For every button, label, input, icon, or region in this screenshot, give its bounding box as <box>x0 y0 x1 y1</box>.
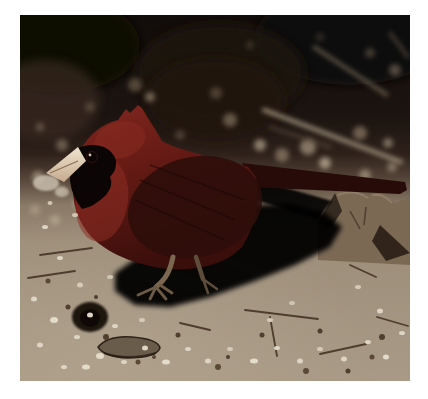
pebble <box>94 295 98 299</box>
seed <box>205 359 211 364</box>
pebble <box>136 360 141 365</box>
seed <box>77 283 83 288</box>
seed <box>50 317 58 323</box>
seed <box>87 313 93 318</box>
bokeh-spot <box>36 123 44 131</box>
seed <box>48 201 53 205</box>
bokeh-spot <box>389 64 401 76</box>
seed <box>121 360 127 364</box>
pebble <box>66 305 71 310</box>
flat-rock <box>98 337 160 358</box>
seed <box>72 213 78 217</box>
pebble <box>260 333 265 338</box>
pebble <box>103 334 109 340</box>
pebble <box>176 333 181 338</box>
seed <box>341 357 347 362</box>
seed <box>31 297 37 302</box>
bokeh-spot <box>210 87 222 99</box>
cardinal-photo-svg: Photograph of an adult male Northern Car… <box>20 15 410 381</box>
seed <box>139 318 145 322</box>
bokeh-spot <box>353 126 367 140</box>
bokeh-spot <box>223 113 237 127</box>
cardinal-photo: Photograph of an adult male Northern Car… <box>20 15 410 381</box>
bokeh-spot <box>275 148 289 162</box>
seed <box>82 365 90 370</box>
seed <box>96 353 104 359</box>
pebble <box>379 334 385 340</box>
seed <box>74 335 80 339</box>
seed <box>274 346 280 350</box>
seed <box>42 225 48 229</box>
seed <box>383 355 389 360</box>
seed <box>377 309 383 314</box>
pebble <box>226 355 230 359</box>
seed <box>289 301 295 305</box>
pebble <box>303 368 309 374</box>
seed <box>57 256 63 260</box>
bokeh-spot <box>316 33 324 41</box>
seed <box>227 347 233 351</box>
seed <box>267 318 273 322</box>
seed <box>61 365 67 369</box>
seed <box>297 359 303 364</box>
bokeh-spot <box>246 41 254 49</box>
dark-patch <box>145 58 285 142</box>
bokeh-spot <box>85 102 95 112</box>
seed <box>162 360 170 365</box>
bokeh-spot <box>128 78 142 92</box>
bokeh-spot <box>383 138 393 148</box>
pebble <box>318 329 323 334</box>
bokeh-spot <box>56 139 68 151</box>
seed <box>142 346 148 351</box>
bokeh-spot <box>254 139 266 151</box>
pebble <box>152 355 156 359</box>
eye-highlight <box>89 154 92 157</box>
seed <box>250 359 258 364</box>
seed <box>399 331 405 335</box>
cardinal-eye <box>87 152 98 163</box>
seed <box>107 275 113 279</box>
pebble <box>370 355 375 360</box>
pebble <box>46 279 51 284</box>
seed <box>37 343 43 348</box>
bokeh-spot <box>145 92 155 102</box>
seed <box>112 324 118 328</box>
pebble <box>215 364 221 370</box>
bokeh-spot <box>365 48 375 58</box>
bokeh-spot <box>175 130 185 140</box>
seed <box>365 340 371 344</box>
hole-center <box>80 309 100 327</box>
seed <box>317 347 323 351</box>
seed <box>355 285 361 289</box>
pebble <box>346 369 351 374</box>
seed <box>185 347 191 351</box>
seed-husk <box>55 187 69 197</box>
seed-husk <box>33 175 59 191</box>
